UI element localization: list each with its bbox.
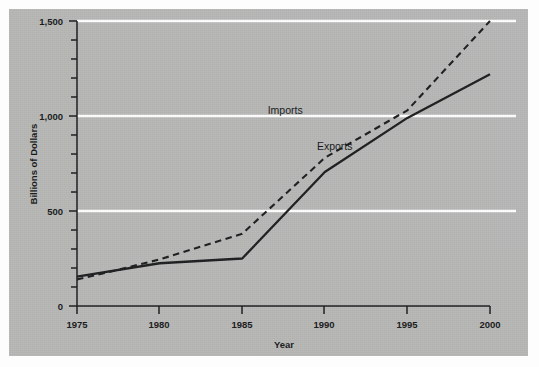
x-axis-ticks: [77, 306, 490, 314]
y-tick-label-1000: 1,000: [39, 111, 63, 122]
y-tick-label-0: 0: [58, 301, 63, 312]
y-axis-major-ticks: [69, 21, 77, 306]
chart-plate: 1,500 1,000 500 0 1975 1980 1985 1990 19…: [9, 9, 528, 356]
y-axis-title: Billions of Dollars: [28, 124, 39, 205]
x-tick-label-2000: 2000: [479, 319, 500, 330]
axes: [77, 21, 490, 306]
x-tick-label-1985: 1985: [231, 319, 253, 330]
x-tick-label-1980: 1980: [148, 319, 169, 330]
y-axis-minor-ticks: [71, 40, 77, 287]
line-chart: 1,500 1,000 500 0 1975 1980 1985 1990 19…: [9, 9, 528, 356]
series-imports: [77, 21, 490, 279]
series-label-imports: Imports: [268, 104, 303, 116]
x-tick-label-1995: 1995: [396, 319, 418, 330]
x-tick-label-1975: 1975: [66, 319, 88, 330]
y-tick-label-1500: 1,500: [39, 16, 63, 27]
x-tick-label-1990: 1990: [313, 319, 334, 330]
x-axis-tick-labels: 1975 1980 1985 1990 1995 2000: [66, 319, 500, 330]
series-label-exports: Exports: [317, 140, 353, 152]
figure: 1,500 1,000 500 0 1975 1980 1985 1990 19…: [0, 0, 539, 367]
imports-dashed-line: [77, 21, 490, 279]
y-axis-tick-labels: 1,500 1,000 500 0: [39, 16, 63, 312]
y-tick-label-500: 500: [47, 206, 63, 217]
x-axis-title: Year: [274, 339, 294, 350]
